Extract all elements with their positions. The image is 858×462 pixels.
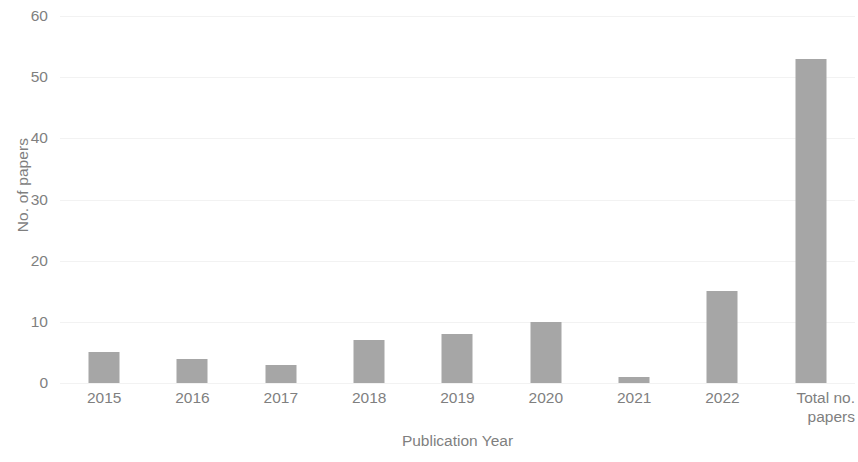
x-axis-tick-label: 2019 — [413, 388, 501, 407]
x-axis-tick-label: 2018 — [325, 388, 413, 407]
bar[interactable] — [89, 352, 120, 383]
x-axis-tick-label-line: 2016 — [148, 388, 236, 407]
x-axis-tick-label: 2016 — [148, 388, 236, 407]
bar[interactable] — [354, 340, 385, 383]
bar-slot — [413, 16, 501, 383]
x-axis-tick-labels: 20152016201720182019202020212022Total no… — [60, 388, 855, 434]
bar[interactable] — [707, 291, 738, 383]
x-axis-title: Publication Year — [60, 432, 855, 450]
bar-slot — [767, 16, 855, 383]
bar-chart: No. of papers 0102030405060 201520162017… — [0, 0, 858, 462]
x-axis-tick-label-line: 2019 — [413, 388, 501, 407]
y-axis-tick-label: 50 — [6, 69, 48, 85]
bar[interactable] — [795, 59, 826, 383]
x-axis-tick-label-line: 2018 — [325, 388, 413, 407]
bar-slot — [502, 16, 590, 383]
x-axis-tick-label-line: 2020 — [502, 388, 590, 407]
x-axis-tick-label-line: papers — [767, 407, 855, 426]
bar-series — [60, 16, 855, 383]
y-axis-tick-label: 10 — [6, 314, 48, 330]
x-axis-tick-label: 2022 — [678, 388, 766, 407]
x-axis-tick-label-line: Total no. — [767, 388, 855, 407]
x-axis-tick-label: 2020 — [502, 388, 590, 407]
x-axis-tick-label: 2021 — [590, 388, 678, 407]
bar[interactable] — [530, 322, 561, 383]
plot-area — [60, 16, 855, 383]
x-axis-tick-label-line: 2022 — [678, 388, 766, 407]
x-axis-tick-label-line: 2021 — [590, 388, 678, 407]
y-axis-title: No. of papers — [14, 100, 32, 270]
bar-slot — [237, 16, 325, 383]
bar[interactable] — [177, 359, 208, 383]
bar-slot — [590, 16, 678, 383]
bar[interactable] — [442, 334, 473, 383]
bar[interactable] — [619, 377, 650, 383]
x-axis-tick-label: 2015 — [60, 388, 148, 407]
bar[interactable] — [265, 365, 296, 383]
x-axis-tick-label: 2017 — [237, 388, 325, 407]
x-axis-tick-label: Total no.papers — [767, 388, 855, 426]
x-axis-tick-label-line: 2017 — [237, 388, 325, 407]
bar-slot — [148, 16, 236, 383]
y-axis-tick-label: 0 — [6, 375, 48, 391]
bar-slot — [325, 16, 413, 383]
x-axis-tick-label-line: 2015 — [60, 388, 148, 407]
bar-slot — [678, 16, 766, 383]
y-axis-tick-label: 60 — [6, 8, 48, 24]
bar-slot — [60, 16, 148, 383]
gridline — [60, 383, 855, 384]
